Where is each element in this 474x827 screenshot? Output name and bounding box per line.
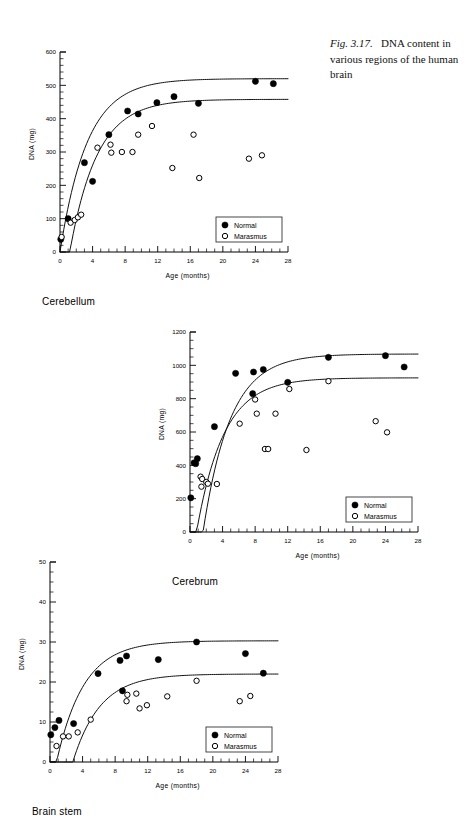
data-point-marasmus: [54, 743, 59, 748]
y-axis-title: DNA (mg): [18, 638, 26, 670]
x-tick-label: 24: [242, 767, 249, 774]
chart-panel-cerebrum: 0200400600800100012000481216202428Age (m…: [148, 318, 468, 568]
data-point-marasmus: [304, 447, 309, 452]
data-point-marasmus: [237, 421, 242, 426]
data-point-normal: [117, 657, 123, 663]
y-tick-label: 0: [183, 528, 187, 535]
data-point-marasmus: [144, 703, 149, 708]
data-point-marasmus: [252, 397, 257, 402]
x-tick-label: 16: [187, 257, 194, 264]
data-point-normal: [401, 364, 407, 370]
data-point-marasmus: [205, 481, 210, 486]
x-tick-label: 20: [349, 537, 356, 544]
chart-legend: NormalMarasmus: [346, 497, 412, 522]
data-point-normal: [260, 670, 266, 676]
data-point-normal: [52, 725, 58, 731]
data-point-marasmus: [170, 165, 175, 170]
brain-stem-plot: 010203040500481216202428Age (months)DNA …: [8, 548, 328, 798]
data-point-normal: [56, 717, 62, 723]
x-tick-label: 28: [285, 257, 292, 264]
data-point-normal: [250, 391, 256, 397]
data-point-marasmus: [326, 378, 331, 383]
data-point-marasmus: [135, 132, 140, 137]
data-point-normal: [71, 721, 77, 727]
legend-label-normal: Normal: [234, 222, 257, 229]
y-tick-label: 200: [46, 182, 57, 189]
data-point-normal: [119, 688, 125, 694]
data-point-normal: [325, 354, 331, 360]
data-point-normal: [233, 370, 239, 376]
chart-panel-cerebellum: 01002003004005006000481216202428Age (mon…: [18, 38, 338, 288]
y-tick-label: 400: [46, 115, 57, 122]
data-point-marasmus: [134, 691, 139, 696]
data-point-normal: [188, 495, 194, 501]
data-point-marasmus: [119, 149, 124, 154]
cerebellum-plot: 01002003004005006000481216202428Age (mon…: [18, 38, 338, 288]
y-tick-label: 40: [39, 598, 46, 605]
x-tick-label: 4: [91, 257, 95, 264]
y-tick-label: 20: [39, 678, 46, 685]
data-point-normal: [124, 108, 130, 114]
y-tick-label: 400: [176, 462, 187, 469]
data-point-marasmus: [125, 692, 130, 697]
data-point-normal: [382, 353, 388, 359]
y-tick-label: 800: [176, 395, 187, 402]
data-point-normal: [193, 639, 199, 645]
y-tick-label: 200: [176, 495, 187, 502]
data-point-marasmus: [149, 123, 154, 128]
data-point-normal: [155, 657, 161, 663]
data-point-normal: [250, 369, 256, 375]
y-tick-label: 50: [39, 558, 46, 565]
data-point-marasmus: [66, 734, 71, 739]
data-point-marasmus: [237, 699, 242, 704]
chart-legend: NormalMarasmus: [206, 727, 272, 752]
y-axis-title: DNA (mg): [28, 128, 36, 160]
legend-marker-normal: [352, 502, 358, 508]
data-point-marasmus: [108, 142, 113, 147]
data-point-marasmus: [246, 156, 251, 161]
data-point-marasmus: [75, 730, 80, 735]
data-point-marasmus: [194, 678, 199, 683]
data-point-normal: [81, 160, 87, 166]
data-point-normal: [48, 732, 54, 738]
data-point-normal: [89, 178, 95, 184]
data-point-marasmus: [384, 430, 389, 435]
legend-label-normal: Normal: [364, 502, 387, 509]
legend-label-marasmus: Marasmus: [224, 743, 257, 750]
y-tick-label: 100: [46, 215, 57, 222]
cerebrum-plot: 0200400600800100012000481216202428Age (m…: [148, 318, 468, 568]
data-point-normal: [270, 81, 276, 87]
chart-legend: NormalMarasmus: [216, 217, 282, 242]
data-point-marasmus: [137, 706, 142, 711]
legend-label-normal: Normal: [224, 732, 247, 739]
data-point-normal: [171, 94, 177, 100]
y-tick-label: 10: [39, 718, 46, 725]
legend-marker-normal: [222, 222, 228, 228]
data-point-marasmus: [60, 734, 65, 739]
region-label-cerebellum: Cerebellum: [42, 296, 95, 307]
data-point-marasmus: [265, 446, 270, 451]
x-tick-label: 16: [317, 537, 324, 544]
data-point-marasmus: [124, 699, 129, 704]
data-point-marasmus: [130, 149, 135, 154]
data-point-normal: [285, 379, 291, 385]
x-tick-label: 20: [209, 767, 216, 774]
y-axis-title: DNA (mg): [158, 408, 166, 440]
x-tick-label: 4: [81, 767, 85, 774]
y-tick-label: 0: [53, 248, 57, 255]
data-point-marasmus: [191, 132, 196, 137]
y-tick-label: 300: [46, 148, 57, 155]
data-point-normal: [260, 366, 266, 372]
chart-panel-brain-stem: 010203040500481216202428Age (months)DNA …: [8, 548, 328, 798]
data-point-normal: [106, 132, 112, 138]
data-point-marasmus: [259, 153, 264, 158]
data-point-marasmus: [109, 150, 114, 155]
x-tick-label: 8: [123, 257, 127, 264]
x-tick-label: 28: [275, 767, 282, 774]
data-point-marasmus: [78, 212, 83, 217]
x-tick-label: 8: [253, 537, 257, 544]
x-tick-label: 12: [144, 767, 151, 774]
legend-label-marasmus: Marasmus: [364, 513, 397, 520]
legend-marker-marasmus: [222, 233, 227, 238]
data-point-marasmus: [287, 386, 292, 391]
